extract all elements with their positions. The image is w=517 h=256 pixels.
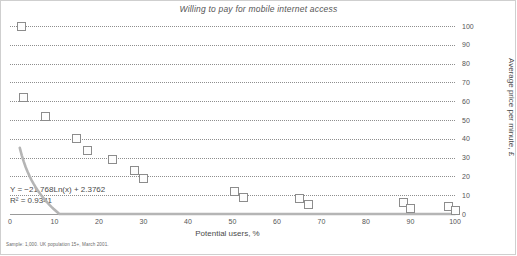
y-tick-label: 20 [462, 173, 486, 180]
x-tick-label: 30 [131, 218, 157, 225]
gridline-y [10, 82, 455, 83]
y-tick-label: 100 [462, 23, 486, 30]
data-point-marker [41, 112, 50, 121]
data-point-marker [17, 22, 26, 31]
gridline-y [10, 101, 455, 102]
x-axis-title: Potential users, % [0, 229, 455, 238]
y-tick-label: 60 [462, 98, 486, 105]
chart-title: Willing to pay for mobile internet acces… [0, 4, 517, 14]
x-tick-label: 50 [220, 218, 246, 225]
y-tick-label: 40 [462, 135, 486, 142]
chart-container: Willing to pay for mobile internet acces… [0, 0, 517, 256]
x-tick-label: 70 [309, 218, 335, 225]
data-point-marker [451, 206, 460, 215]
y-axis-title: Average price per minute, £ [507, 58, 516, 156]
x-tick-label: 10 [42, 218, 68, 225]
gridline-y [10, 120, 455, 121]
y-tick-label: 10 [462, 192, 486, 199]
y-tick-label: 50 [462, 117, 486, 124]
y-tick-label: 80 [462, 60, 486, 67]
gridline-y [10, 64, 455, 65]
data-point-marker [83, 146, 92, 155]
data-point-marker [406, 204, 415, 213]
trendline-r-squared: R² = 0.9341 [10, 195, 105, 206]
data-point-marker [139, 174, 148, 183]
data-point-marker [239, 193, 248, 202]
data-point-marker [304, 200, 313, 209]
data-point-marker [108, 155, 117, 164]
data-point-marker [295, 194, 304, 203]
y-tick-label: 70 [462, 79, 486, 86]
x-tick-label: 100 [442, 218, 468, 225]
trendline-equation-block: Y = −21.768Ln(x) + 2.3762 R² = 0.9341 [10, 184, 105, 206]
trendline-equation: Y = −21.768Ln(x) + 2.3762 [10, 184, 105, 195]
x-tick-label: 0 [0, 218, 23, 225]
gridline-y [10, 176, 455, 177]
gridline-y [10, 45, 455, 46]
y-tick-label: 30 [462, 154, 486, 161]
x-tick-label: 40 [175, 218, 201, 225]
data-point-marker [130, 166, 139, 175]
gridline-y [10, 158, 455, 159]
x-tick-label: 80 [353, 218, 379, 225]
chart-footnote: Sample: 1,000. UK population 15+, March … [6, 242, 109, 247]
x-axis-line [10, 214, 455, 215]
data-point-marker [72, 134, 81, 143]
y-tick-label: 0 [462, 211, 486, 218]
y-tick-label: 90 [462, 41, 486, 48]
data-point-marker [19, 93, 28, 102]
gridline-y [10, 26, 455, 27]
data-point-marker [230, 187, 239, 196]
x-tick-label: 90 [398, 218, 424, 225]
x-tick-label: 60 [264, 218, 290, 225]
x-tick-label: 20 [86, 218, 112, 225]
